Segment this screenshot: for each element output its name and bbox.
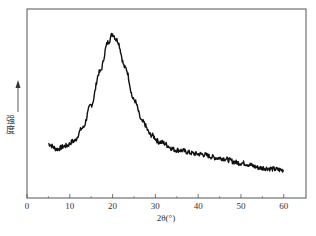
y-axis-title-char-1: 强 bbox=[6, 115, 16, 125]
x-axis-title: 2θ(°) bbox=[157, 213, 175, 223]
xrd-chart: 0102030405060 2θ(°) bbox=[0, 0, 316, 236]
x-tick-label: 10 bbox=[65, 201, 75, 211]
y-axis-title-char-2: 度 bbox=[6, 125, 16, 135]
x-tick-label: 0 bbox=[25, 201, 30, 211]
x-axis-tick-labels: 0102030405060 bbox=[25, 201, 289, 211]
x-tick-label: 20 bbox=[108, 201, 118, 211]
x-tick-label: 60 bbox=[279, 201, 289, 211]
y-axis-arrow bbox=[16, 80, 21, 112]
x-tick-label: 40 bbox=[194, 201, 204, 211]
x-axis-ticks bbox=[27, 194, 284, 198]
xrd-curve bbox=[48, 34, 283, 173]
y-axis-title: 强 度 bbox=[6, 115, 16, 135]
up-arrow-icon bbox=[16, 80, 21, 88]
x-tick-label: 50 bbox=[236, 201, 246, 211]
x-tick-label: 30 bbox=[151, 201, 161, 211]
